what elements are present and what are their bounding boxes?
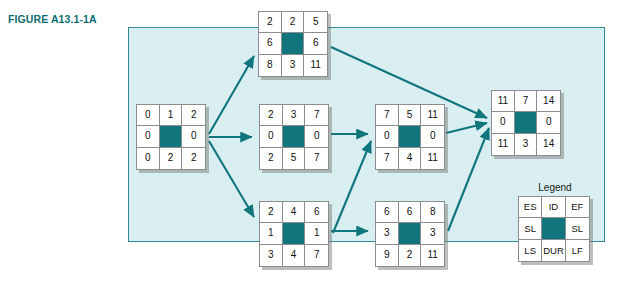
node-2-ls: 8 <box>259 55 282 76</box>
node-5-dur: 4 <box>399 148 422 169</box>
node-3-lf: 7 <box>305 148 328 169</box>
legend-cell-dur: DUR <box>542 240 565 261</box>
node-1-dur: 2 <box>160 148 183 169</box>
node-6-es: 6 <box>376 202 399 223</box>
node-5-accent-block <box>399 126 422 147</box>
node-3-ls: 2 <box>260 148 283 169</box>
node-4-ef: 6 <box>305 202 328 223</box>
node-1-lf: 2 <box>182 148 205 169</box>
node-3-sl-left: 0 <box>260 126 283 147</box>
node-5-sl-right: 0 <box>421 126 444 147</box>
node-7-id: 7 <box>515 91 538 112</box>
node-2[interactable]: 2 2 5 6 6 8 3 11 <box>258 11 328 77</box>
node-2-sl-right: 6 <box>304 33 327 54</box>
legend-cell-es: ES <box>519 197 542 218</box>
node-4-ls: 3 <box>260 245 283 266</box>
node-5-lf: 11 <box>421 148 444 169</box>
node-4-id: 4 <box>283 202 306 223</box>
node-6-id: 6 <box>399 202 422 223</box>
node-6-sl-right: 3 <box>421 223 444 244</box>
node-6[interactable]: 6 6 8 3 3 9 2 11 <box>375 201 445 267</box>
node-5-ls: 7 <box>376 148 399 169</box>
node-4-dur: 4 <box>283 245 306 266</box>
node-2-es: 2 <box>259 12 282 33</box>
node-6-ls: 9 <box>376 245 399 266</box>
node-1-sl-right: 0 <box>182 126 205 147</box>
node-7-accent-block <box>515 112 538 133</box>
legend-cell-lf: LF <box>566 240 589 261</box>
node-4-sl-left: 1 <box>260 223 283 244</box>
node-5-sl-left: 0 <box>376 126 399 147</box>
node-3[interactable]: 2 3 7 0 0 2 5 7 <box>259 104 329 170</box>
node-3-es: 2 <box>260 105 283 126</box>
node-5-ef: 11 <box>421 105 444 126</box>
node-7-lf: 14 <box>537 134 560 155</box>
node-2-ef: 5 <box>304 12 327 33</box>
legend-cell-sl-right: SL <box>566 218 589 239</box>
node-6-accent-block <box>399 223 422 244</box>
legend-cell-id: ID <box>542 197 565 218</box>
legend-cell-ef: EF <box>566 197 589 218</box>
node-2-sl-left: 6 <box>259 33 282 54</box>
node-3-ef: 7 <box>305 105 328 126</box>
node-7-ef: 14 <box>537 91 560 112</box>
node-2-accent-block <box>282 33 305 54</box>
node-1-ls: 0 <box>137 148 160 169</box>
node-1[interactable]: 0 1 2 0 0 0 2 2 <box>136 104 206 170</box>
node-5-es: 7 <box>376 105 399 126</box>
node-2-dur: 3 <box>282 55 305 76</box>
node-2-id: 2 <box>282 12 305 33</box>
node-7-dur: 3 <box>515 134 538 155</box>
node-6-lf: 11 <box>421 245 444 266</box>
node-4-es: 2 <box>260 202 283 223</box>
node-7-ls: 11 <box>492 134 515 155</box>
node-7-sl-right: 0 <box>537 112 560 133</box>
node-3-accent-block <box>283 126 306 147</box>
node-5[interactable]: 7 5 11 0 0 7 4 11 <box>375 104 445 170</box>
node-6-dur: 2 <box>399 245 422 266</box>
legend-label: Legend <box>514 183 596 193</box>
legend-cell-sl-left: SL <box>519 218 542 239</box>
node-6-ef: 8 <box>421 202 444 223</box>
node-4-lf: 7 <box>305 245 328 266</box>
node-1-accent-block <box>160 126 183 147</box>
node-3-dur: 5 <box>283 148 306 169</box>
legend-node: ES ID EF SL SL LS DUR LF <box>518 196 590 262</box>
legend-cell-ls: LS <box>519 240 542 261</box>
legend: Legend ES ID EF SL SL LS DUR LF <box>512 183 596 262</box>
node-4[interactable]: 2 4 6 1 1 3 4 7 <box>259 201 329 267</box>
node-7-es: 11 <box>492 91 515 112</box>
node-2-lf: 11 <box>304 55 327 76</box>
node-1-id: 1 <box>160 105 183 126</box>
node-7[interactable]: 11 7 14 0 0 11 3 14 <box>491 90 561 156</box>
node-1-es: 0 <box>137 105 160 126</box>
node-3-id: 3 <box>283 105 306 126</box>
node-3-sl-right: 0 <box>305 126 328 147</box>
node-6-sl-left: 3 <box>376 223 399 244</box>
node-4-accent-block <box>283 223 306 244</box>
node-4-sl-right: 1 <box>305 223 328 244</box>
node-1-sl-left: 0 <box>137 126 160 147</box>
node-1-ef: 2 <box>182 105 205 126</box>
legend-accent-block <box>542 218 565 239</box>
node-5-id: 5 <box>399 105 422 126</box>
figure-title: FIGURE A13.1-1A <box>8 13 97 25</box>
node-7-sl-left: 0 <box>492 112 515 133</box>
